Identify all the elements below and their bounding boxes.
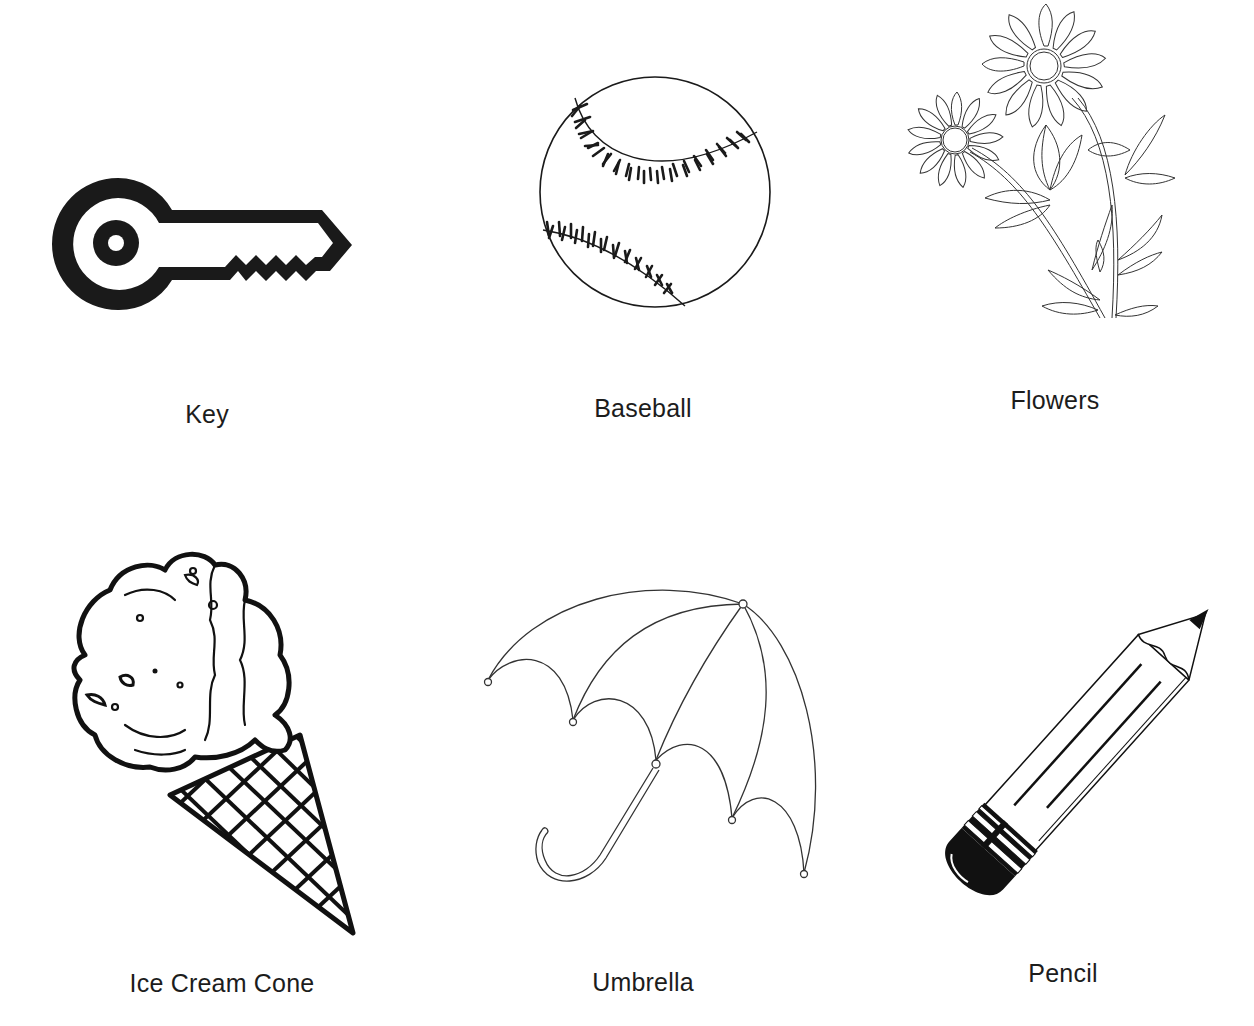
label-pencil: Pencil xyxy=(1028,959,1097,988)
label-ice-cream-cone: Ice Cream Cone xyxy=(130,969,315,998)
key-icon xyxy=(60,175,360,315)
baseball-icon xyxy=(535,70,775,315)
label-flowers: Flowers xyxy=(1011,386,1100,415)
pencil-icon xyxy=(945,608,1200,893)
ice-cream-cone-icon xyxy=(65,545,365,945)
label-key: Key xyxy=(185,400,229,429)
flowers-icon xyxy=(900,0,1180,330)
label-baseball: Baseball xyxy=(594,394,692,423)
label-umbrella: Umbrella xyxy=(592,968,694,997)
umbrella-icon xyxy=(470,580,850,890)
